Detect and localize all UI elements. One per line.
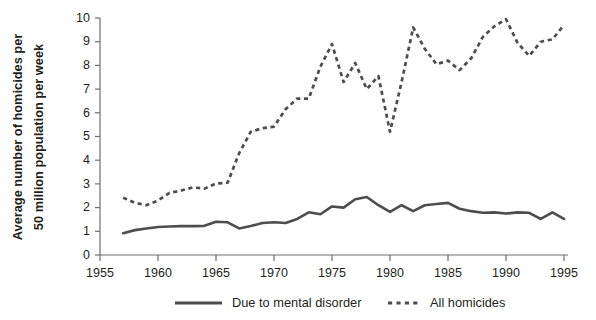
y-tick-label: 0: [83, 248, 90, 262]
x-axis-ticks: 195519601965197019751980198519901995: [86, 255, 578, 280]
series-all-homicides: [123, 19, 564, 205]
chart-legend: Due to mental disorder All homicides: [175, 295, 505, 310]
x-tick-label: 1965: [202, 266, 230, 280]
x-tick-label: 1990: [492, 266, 520, 280]
y-tick-label: 10: [76, 11, 90, 25]
x-tick-label: 1960: [144, 266, 172, 280]
y-tick-label: 4: [83, 153, 90, 167]
y-tick-label: 7: [83, 82, 90, 96]
x-tick-label: 1970: [260, 266, 288, 280]
series-layer: [123, 19, 564, 233]
x-tick-label: 1985: [434, 266, 462, 280]
y-tick-label: 2: [83, 200, 90, 214]
y-tick-label: 8: [83, 58, 90, 72]
chart-container: Average number of homicides per 50 milli…: [0, 0, 596, 320]
x-tick-label: 1955: [86, 266, 114, 280]
legend-label-due-to-mental-disorder: Due to mental disorder: [232, 295, 362, 310]
y-axis-title-line2: 50 million population per week: [31, 43, 46, 230]
y-tick-label: 9: [83, 34, 90, 48]
y-tick-label: 6: [83, 106, 90, 120]
series-due-to-mental-disorder: [123, 197, 564, 233]
x-tick-label: 1995: [550, 266, 578, 280]
x-tick-label: 1975: [318, 266, 346, 280]
y-axis-title-line1: Average number of homicides per: [10, 34, 25, 240]
y-tick-label: 5: [83, 129, 90, 143]
homicides-line-chart: Average number of homicides per 50 milli…: [0, 0, 596, 320]
x-tick-label: 1980: [376, 266, 404, 280]
y-tick-label: 1: [83, 224, 90, 238]
y-tick-label: 3: [83, 177, 90, 191]
y-axis-ticks: 012345678910: [76, 11, 100, 262]
y-axis-title: Average number of homicides per 50 milli…: [10, 34, 46, 240]
legend-label-all-homicides: All homicides: [430, 295, 505, 310]
